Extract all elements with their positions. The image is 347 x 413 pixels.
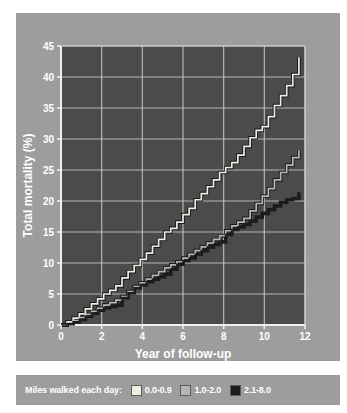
y-tick-label-20: 20: [43, 196, 55, 207]
y-tick-label-30: 30: [43, 134, 55, 145]
legend-swatch-0.0-0.9: [131, 385, 142, 396]
y-tick-label-10: 10: [43, 258, 55, 269]
y-axis-title: Total mortality (%): [21, 134, 35, 238]
y-tick-label-40: 40: [43, 72, 55, 83]
y-tick-label-0: 0: [48, 320, 54, 331]
y-tick-label-45: 45: [43, 41, 55, 52]
legend-label-0.0-0.9: 0.0-0.9: [145, 385, 172, 395]
legend-title: Miles walked each day:: [25, 385, 122, 395]
legend-entry-0.0-0.9: 0.0-0.9: [131, 385, 172, 396]
x-tick-label-0: 0: [58, 331, 64, 342]
legend-entry-2.1-8.0: 2.1-8.0: [230, 385, 271, 396]
legend-label-1.0-2.0: 1.0-2.0: [194, 385, 221, 395]
x-tick-label-10: 10: [259, 331, 271, 342]
y-tick-label-25: 25: [43, 165, 55, 176]
legend-entries: 0.0-0.91.0-2.02.1-8.0: [122, 385, 271, 396]
y-tick-label-5: 5: [48, 289, 54, 300]
x-tick-label-2: 2: [99, 331, 105, 342]
legend-swatch-1.0-2.0: [180, 385, 191, 396]
legend-swatch-2.1-8.0: [230, 385, 241, 396]
figure-panel: 051015202530354045024681012Year of follo…: [16, 13, 340, 361]
y-tick-label-35: 35: [43, 103, 55, 114]
chart-legend: Miles walked each day: 0.0-0.91.0-2.02.1…: [16, 375, 340, 405]
legend-entry-1.0-2.0: 1.0-2.0: [180, 385, 221, 396]
x-axis-title: Year of follow-up: [135, 347, 232, 361]
x-tick-label-6: 6: [180, 331, 186, 342]
legend-label-2.1-8.0: 2.1-8.0: [244, 385, 271, 395]
mortality-line-chart: 051015202530354045024681012Year of follo…: [16, 13, 340, 361]
x-tick-label-12: 12: [299, 331, 311, 342]
chart-screenshot: 051015202530354045024681012Year of follo…: [0, 0, 347, 413]
y-tick-label-15: 15: [43, 227, 55, 238]
x-tick-label-8: 8: [221, 331, 227, 342]
x-tick-label-4: 4: [140, 331, 146, 342]
